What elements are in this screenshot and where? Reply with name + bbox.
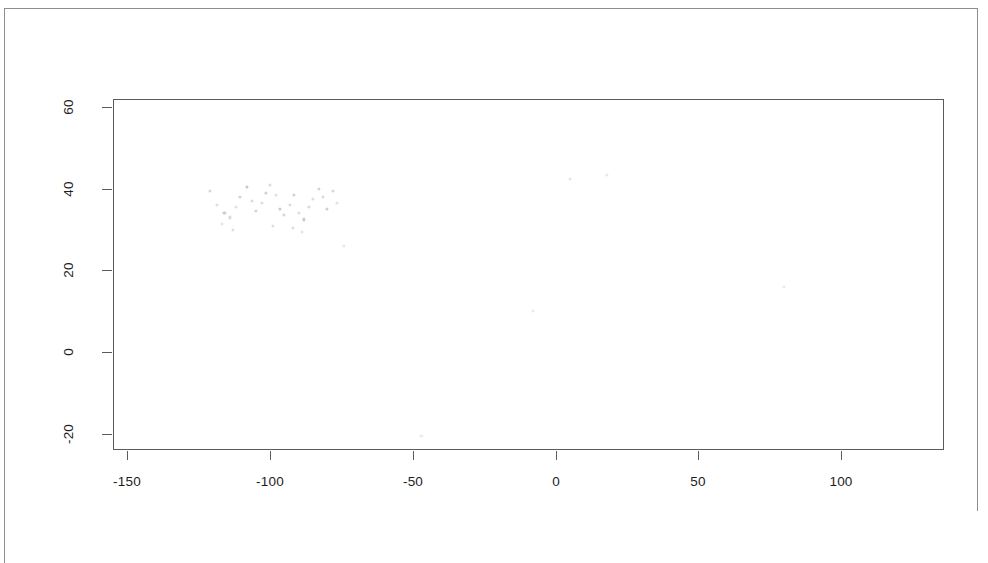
x-tick [698, 451, 699, 460]
page-border-right [977, 8, 978, 511]
y-tick-label: 60 [61, 99, 76, 114]
y-tick [102, 270, 112, 271]
y-tick [102, 107, 112, 108]
x-tick-label: 50 [690, 474, 705, 489]
x-tick-label: -150 [113, 474, 141, 489]
x-tick [127, 451, 128, 460]
page-border-top [4, 8, 978, 9]
y-tick [102, 189, 112, 190]
scanned-page: -150-100-50050100 6040200-20 [0, 0, 988, 563]
x-tick-label: -50 [403, 474, 423, 489]
y-tick-label: 0 [61, 348, 76, 356]
page-border-left [4, 8, 5, 563]
y-tick [102, 352, 112, 353]
y-tick-label: -20 [61, 424, 76, 444]
x-tick [270, 451, 271, 460]
x-tick-label: 0 [552, 474, 560, 489]
plot-frame [113, 99, 944, 450]
y-tick-label: 40 [61, 181, 76, 196]
x-tick-label: -100 [256, 474, 284, 489]
y-tick [102, 434, 112, 435]
x-tick [413, 451, 414, 460]
x-tick-label: 100 [829, 474, 852, 489]
y-tick-label: 20 [61, 262, 76, 277]
x-tick [556, 451, 557, 460]
x-tick [841, 451, 842, 460]
